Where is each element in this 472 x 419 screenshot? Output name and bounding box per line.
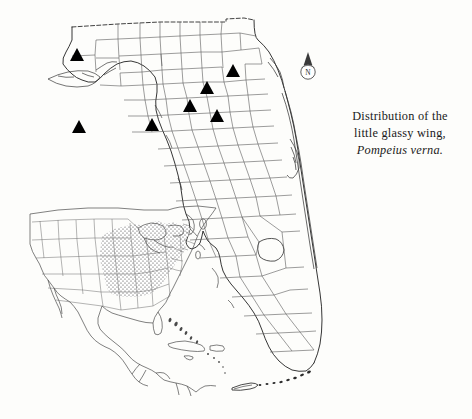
figure-page: N bbox=[0, 0, 472, 419]
occurrence-marker-rec-6[interactable] bbox=[72, 120, 86, 133]
range-stipple-area bbox=[100, 221, 190, 297]
state-border-north bbox=[72, 18, 254, 27]
barrier-islands-gulf bbox=[48, 62, 117, 87]
occurrence-marker-rec-2[interactable] bbox=[226, 64, 240, 77]
occurrence-marker-rec-4[interactable] bbox=[183, 99, 197, 112]
occurrence-marker-rec-1[interactable] bbox=[70, 48, 84, 61]
north-arrow-label: N bbox=[305, 68, 311, 77]
north-america-inset-map bbox=[18, 196, 228, 396]
caption-scientific-name: Pompeius verna. bbox=[330, 142, 470, 159]
north-arrow-icon: N bbox=[294, 50, 322, 84]
county-boundaries-north bbox=[72, 22, 274, 132]
caption-line-1: Distribution of the bbox=[330, 108, 470, 125]
occurrence-marker-rec-5[interactable] bbox=[210, 109, 224, 122]
caption-line-2: little glassy wing, bbox=[330, 125, 470, 142]
occurrence-marker-rec-7[interactable] bbox=[145, 118, 159, 131]
florida-keys bbox=[232, 370, 311, 390]
figure-caption: Distribution of the little glassy wing, … bbox=[330, 108, 470, 159]
lake-okeechobee bbox=[258, 238, 284, 261]
indian-river-lagoon bbox=[268, 58, 317, 269]
occurrence-marker-rec-3[interactable] bbox=[200, 81, 214, 94]
